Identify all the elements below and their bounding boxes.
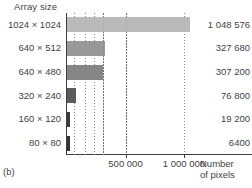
x-axis-caption: Number of pixels <box>200 158 235 180</box>
chart-row: 1024 × 10241 048 576 <box>0 13 252 37</box>
chart-row: 320 × 24076 800 <box>0 84 252 108</box>
chart-row: 80 × 806400 <box>0 131 252 155</box>
x-axis-caption-line1: Number <box>200 158 235 169</box>
y-axis-title: Array size <box>14 1 57 12</box>
category-label: 1024 × 1024 <box>0 19 61 30</box>
x-axis-tick-label: 500 000 <box>96 158 156 169</box>
bar-chart-figure: Array size 1024 × 10241 048 576640 × 512… <box>0 0 252 188</box>
value-label: 76 800 <box>190 90 250 101</box>
bar <box>67 17 190 32</box>
category-label: 640 × 480 <box>0 66 61 77</box>
value-label: 19 200 <box>190 113 250 124</box>
panel-letter: (b) <box>3 166 15 177</box>
value-label: 307 200 <box>190 66 250 77</box>
bar <box>67 112 70 127</box>
chart-row: 160 × 12019 200 <box>0 108 252 132</box>
category-label: 640 × 512 <box>0 42 61 53</box>
chart-row: 640 × 480307 200 <box>0 60 252 84</box>
x-axis-caption-line2: of pixels <box>200 169 235 180</box>
chart-row: 640 × 512327 680 <box>0 37 252 61</box>
category-label: 160 × 120 <box>0 113 61 124</box>
value-label: 6400 <box>190 137 250 148</box>
bar <box>67 41 105 56</box>
bar <box>67 88 76 103</box>
category-label: 80 × 80 <box>0 137 61 148</box>
value-label: 1 048 576 <box>190 19 250 30</box>
bar <box>67 136 70 151</box>
bar <box>67 65 103 80</box>
category-label: 320 × 240 <box>0 90 61 101</box>
value-label: 327 680 <box>190 42 250 53</box>
